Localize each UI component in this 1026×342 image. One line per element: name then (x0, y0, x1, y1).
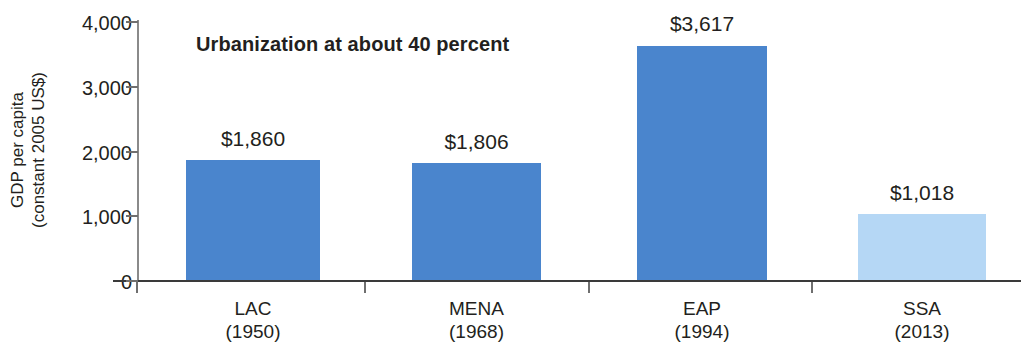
category-label-lac-year: (1950) (186, 320, 320, 342)
bar-value-lac: $1,860 (186, 128, 320, 149)
category-label-ssa-name: SSA (903, 298, 941, 319)
bar-mena (412, 163, 541, 280)
category-label-mena-name: MENA (449, 298, 504, 319)
category-label-lac-name: LAC (235, 298, 272, 319)
bar-value-mena: $1,806 (407, 131, 546, 152)
bar-value-eap: $3,617 (632, 13, 772, 34)
category-label-eap-year: (1994) (632, 320, 772, 342)
bar-chart: GDP per capita (constant 2005 US$) 4,000… (0, 0, 1026, 342)
category-label-ssa-year: (2013) (853, 320, 991, 342)
category-label-mena: MENA (1968) (407, 297, 546, 342)
bar-value-ssa: $1,018 (853, 182, 991, 203)
bar-lac (186, 160, 320, 280)
category-label-mena-year: (1968) (407, 320, 546, 342)
category-label-ssa: SSA (2013) (853, 297, 991, 342)
category-label-eap-name: EAP (683, 298, 721, 319)
chart-annotation: Urbanization at about 40 percent (196, 33, 509, 56)
bar-ssa (858, 214, 986, 280)
plot-area: $1,860 LAC (1950) $1,806 MENA (1968) $3,… (0, 0, 1026, 342)
category-label-eap: EAP (1994) (632, 297, 772, 342)
bar-eap (637, 46, 767, 280)
category-label-lac: LAC (1950) (186, 297, 320, 342)
